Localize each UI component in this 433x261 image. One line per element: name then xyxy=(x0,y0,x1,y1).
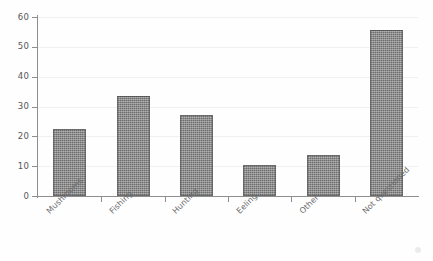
bar xyxy=(243,165,276,196)
bar xyxy=(307,155,340,196)
y-axis-tick-label: 50 xyxy=(5,42,29,51)
y-axis-tick-label: 40 xyxy=(5,72,29,81)
y-axis-line xyxy=(37,15,38,198)
gridline xyxy=(38,77,418,78)
x-axis-tick xyxy=(101,197,102,202)
bar xyxy=(117,96,150,196)
x-axis-tick xyxy=(228,197,229,202)
x-axis-tick xyxy=(291,197,292,202)
y-axis-tick-label: 30 xyxy=(5,102,29,111)
y-axis-tick-label: 60 xyxy=(5,13,29,22)
scan-artifact xyxy=(415,247,421,253)
x-axis-tick xyxy=(165,197,166,202)
gridline xyxy=(38,17,418,18)
gridline xyxy=(38,136,418,137)
gridline xyxy=(38,107,418,108)
plot-area xyxy=(38,17,418,196)
y-axis-tick-label: 0 xyxy=(5,192,29,201)
gridline xyxy=(38,166,418,167)
y-axis-tick-label: 10 xyxy=(5,162,29,171)
gridline xyxy=(38,47,418,48)
bar xyxy=(180,115,213,196)
bar-chart: 0102030405060 MushroomsFishingHuntingEel… xyxy=(0,0,433,261)
y-axis-tick-label: 20 xyxy=(5,132,29,141)
x-axis-tick xyxy=(355,197,356,202)
